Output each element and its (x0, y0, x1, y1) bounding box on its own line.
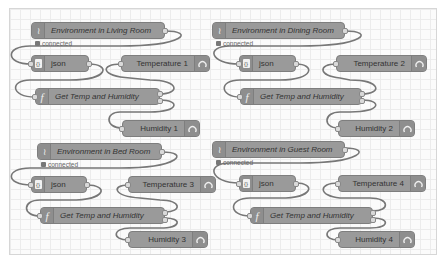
node-label: Humidity 2 (339, 124, 399, 133)
output-port-2[interactable] (359, 98, 365, 104)
status-dot-icon (216, 41, 221, 46)
gauge-node-humidity[interactable]: Humidity 4 (338, 231, 415, 248)
function-node[interactable]: f Get Temp and Humidity (35, 88, 160, 105)
input-port[interactable] (28, 182, 34, 188)
status-text: connected (48, 161, 78, 168)
gauge-icon (399, 121, 414, 136)
node-status: connected (35, 40, 72, 47)
inject-node-dining-room[interactable]: ≀ Environment in Dining Room (212, 22, 345, 39)
node-label: Get Temp and Humidity (49, 92, 159, 101)
wifi-wave-icon: ≀ (213, 23, 226, 38)
output-port-1[interactable] (162, 210, 168, 216)
input-port[interactable] (28, 61, 34, 67)
wifi-wave-icon: ≀ (32, 23, 45, 38)
gauge-node-humidity[interactable]: Humidity 1 (122, 120, 200, 137)
input-port[interactable] (32, 94, 38, 100)
node-status: connected (216, 40, 253, 47)
node-label: Humidity 3 (129, 235, 192, 244)
status-dot-icon (216, 160, 221, 165)
node-label: Get Temp and Humidity (54, 211, 164, 220)
input-port[interactable] (125, 182, 131, 188)
gauge-icon (410, 176, 425, 191)
node-status: connected (216, 159, 253, 166)
gauge-icon (411, 56, 426, 71)
gauge-icon (194, 56, 209, 71)
function-node[interactable]: f Get Temp and Humidity (40, 207, 165, 224)
output-port-1[interactable] (370, 210, 376, 216)
input-port[interactable] (335, 181, 341, 187)
output-port[interactable] (342, 28, 348, 34)
node-label: Temperature 4 (339, 179, 410, 188)
output-port[interactable] (293, 181, 299, 187)
gauge-node-temperature[interactable]: Temperature 1 (121, 55, 210, 72)
gauge-node-temperature[interactable]: Temperature 2 (336, 55, 427, 72)
json-node[interactable]: {} json (31, 176, 87, 193)
node-label: Environment in Bed Room (51, 147, 161, 156)
input-port[interactable] (237, 94, 243, 100)
node-label: Get Temp and Humidity (254, 92, 361, 101)
output-port[interactable] (293, 61, 299, 67)
gauge-node-humidity[interactable]: Humidity 2 (338, 120, 415, 137)
output-port-2[interactable] (370, 217, 376, 223)
input-port[interactable] (236, 61, 242, 67)
wifi-wave-icon: ≀ (38, 144, 51, 159)
gauge-icon (399, 232, 414, 247)
gauge-node-temperature[interactable]: Temperature 3 (128, 176, 216, 193)
status-text: connected (42, 40, 72, 47)
node-label: Environment in Dining Room (226, 26, 344, 35)
input-port[interactable] (333, 61, 339, 67)
gauge-node-humidity[interactable]: Humidity 3 (128, 231, 208, 248)
node-label: json (253, 179, 295, 188)
status-text: connected (223, 159, 253, 166)
function-node[interactable]: f Get Temp and Humidity (250, 207, 373, 224)
gauge-icon (192, 232, 207, 247)
inject-node-living-room[interactable]: ≀ Environment in Living Room (31, 22, 165, 39)
node-label: Get Temp and Humidity (264, 211, 372, 220)
status-dot-icon (41, 162, 46, 167)
status-dot-icon (35, 41, 40, 46)
input-port[interactable] (118, 61, 124, 67)
input-port[interactable] (247, 213, 253, 219)
input-port[interactable] (335, 237, 341, 243)
node-label: Temperature 2 (337, 59, 411, 68)
input-port[interactable] (125, 237, 131, 243)
output-port[interactable] (159, 149, 165, 155)
inject-node-bed-room[interactable]: ≀ Environment in Bed Room (37, 143, 162, 160)
output-port[interactable] (162, 28, 168, 34)
node-label: Temperature 1 (122, 59, 194, 68)
node-label: json (45, 59, 88, 68)
node-label: Environment in Guest Room (226, 145, 344, 154)
wifi-wave-icon: ≀ (213, 142, 226, 157)
node-label: Environment in Living Room (45, 26, 164, 35)
node-label: Humidity 1 (123, 124, 184, 133)
output-port-2[interactable] (162, 217, 168, 223)
status-text: connected (223, 40, 253, 47)
json-node[interactable]: {} json (31, 55, 89, 72)
input-port[interactable] (119, 126, 125, 132)
gauge-icon (184, 121, 199, 136)
gauge-node-temperature[interactable]: Temperature 4 (338, 175, 426, 192)
output-port-1[interactable] (359, 91, 365, 97)
input-port[interactable] (335, 126, 341, 132)
json-node[interactable]: {} json (239, 175, 296, 192)
json-node[interactable]: {} json (239, 55, 296, 72)
output-port-1[interactable] (157, 91, 163, 97)
output-port[interactable] (86, 61, 92, 67)
function-node[interactable]: f Get Temp and Humidity (240, 88, 362, 105)
gauge-icon (200, 177, 215, 192)
input-port[interactable] (37, 213, 43, 219)
node-label: json (45, 180, 86, 189)
output-port[interactable] (84, 182, 90, 188)
inject-node-guest-room[interactable]: ≀ Environment in Guest Room (212, 141, 345, 158)
node-label: Humidity 4 (339, 235, 399, 244)
output-port-2[interactable] (157, 98, 163, 104)
input-port[interactable] (236, 181, 242, 187)
output-port[interactable] (342, 147, 348, 153)
node-status: connected (41, 161, 78, 168)
node-label: Temperature 3 (129, 180, 200, 189)
node-label: json (253, 59, 295, 68)
